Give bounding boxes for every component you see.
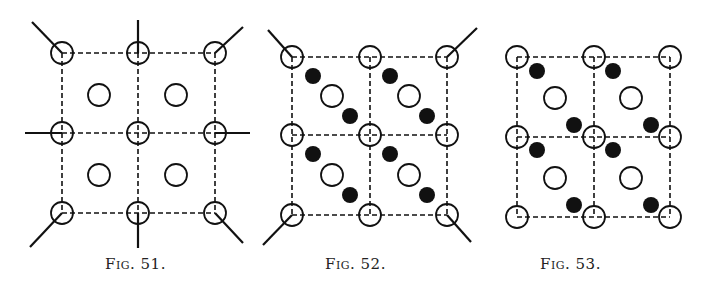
interior-atom-open xyxy=(620,87,642,109)
interior-atom-filled xyxy=(529,142,545,158)
interior-atom-open xyxy=(321,85,343,107)
interior-atom-open xyxy=(544,167,566,189)
interior-atom-filled xyxy=(419,108,435,124)
interior-atom-filled xyxy=(342,108,358,124)
bond-line xyxy=(447,215,471,242)
interior-atom-open xyxy=(321,164,343,186)
interior-atom-open xyxy=(88,164,110,186)
interior-atom-open xyxy=(165,84,187,106)
bond-line xyxy=(30,213,62,247)
bond-line xyxy=(263,215,292,245)
caption-fig51: Fig. 51. xyxy=(105,255,166,273)
interior-atom-filled xyxy=(566,197,582,213)
interior-atom-filled xyxy=(566,117,582,133)
interior-atom-filled xyxy=(305,68,321,84)
bond-line xyxy=(268,30,292,57)
interior-atom-filled xyxy=(382,146,398,162)
interior-atom-filled xyxy=(643,197,659,213)
interior-atom-filled xyxy=(305,146,321,162)
bond-line xyxy=(32,22,62,53)
interior-atom-filled xyxy=(605,142,621,158)
interior-atom-open xyxy=(88,84,110,106)
interior-atom-filled xyxy=(529,63,545,79)
interior-atom-open xyxy=(398,85,420,107)
interior-atom-filled xyxy=(382,68,398,84)
bond-line xyxy=(215,27,243,53)
interior-atom-filled xyxy=(419,187,435,203)
caption-fig52: Fig. 52. xyxy=(325,255,386,273)
caption-fig53: Fig. 53. xyxy=(540,255,601,273)
bond-line xyxy=(215,213,243,243)
interior-atom-filled xyxy=(605,63,621,79)
interior-atom-open xyxy=(620,167,642,189)
lattice-diagrams xyxy=(0,0,702,291)
interior-atom-open xyxy=(544,87,566,109)
bond-line xyxy=(447,28,477,57)
lattice-atom xyxy=(359,124,381,146)
interior-atom-filled xyxy=(643,117,659,133)
interior-atom-open xyxy=(398,164,420,186)
interior-atom-open xyxy=(165,164,187,186)
interior-atom-filled xyxy=(342,187,358,203)
